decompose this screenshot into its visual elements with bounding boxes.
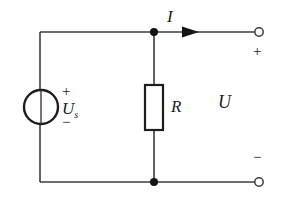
terminal-open-circle-top: [255, 28, 263, 36]
source-plus-sign: +: [62, 84, 70, 99]
junction-dot-bottom: [150, 178, 158, 186]
terminal-open-circle-bottom: [255, 178, 263, 186]
current-label: I: [167, 8, 173, 25]
resistor-label: R: [171, 98, 181, 115]
circuit-schematic-canvas: [0, 0, 284, 199]
junction-dot-top: [150, 28, 158, 36]
terminal-plus-sign: +: [253, 44, 261, 59]
terminal-minus-sign: −: [253, 150, 261, 165]
output-voltage-label: U: [218, 93, 231, 111]
circuit-diagram: I R U Us + − + −: [0, 0, 284, 199]
current-arrow-icon: [182, 27, 199, 38]
source-minus-sign: −: [62, 115, 70, 130]
resistor-rect-icon: [145, 85, 163, 130]
source-voltage-subscript: s: [74, 109, 78, 120]
